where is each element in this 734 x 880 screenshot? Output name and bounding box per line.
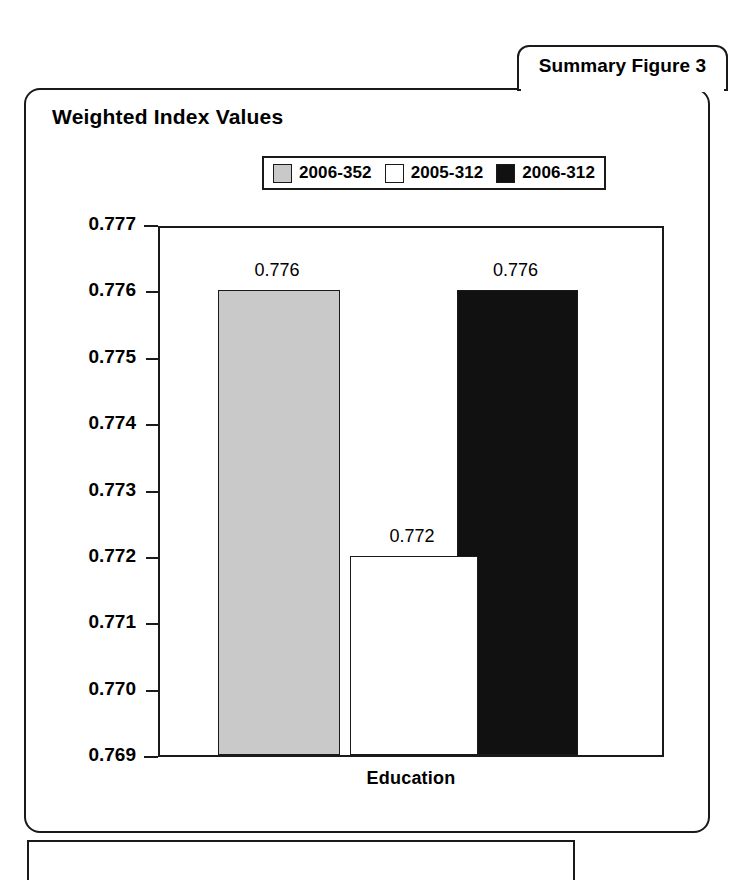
y-axis-tick-mark [146,291,158,293]
chart-title: Weighted Index Values [52,105,283,129]
legend-label-2: 2006-312 [522,163,595,183]
plot-inner [160,228,662,755]
y-axis-tick-label: 0.776 [58,279,136,301]
x-axis-category-label: Education [158,768,664,789]
legend-label-1: 2005-312 [411,163,484,183]
bar-value-label: 0.776 [216,260,338,281]
y-axis-tick-mark [146,358,158,360]
y-axis-tick-label: 0.774 [58,412,136,434]
legend-swatch-icon-1 [385,164,404,183]
y-axis-tick-label: 0.769 [58,744,136,766]
bar-2006-352 [218,290,340,755]
legend-item-0: 2006-352 [273,163,372,183]
bar-value-label: 0.776 [455,260,576,281]
legend-item-1: 2005-312 [385,163,484,183]
y-axis-tick-mark [146,424,158,426]
y-axis-tick-label: 0.777 [58,213,136,235]
summary-figure-tab-label: Summary Figure 3 [519,55,726,77]
bar-value-label: 0.772 [348,526,476,547]
y-axis-tick-mark [146,491,158,493]
y-axis-tick-mark [144,756,158,758]
tab-merge-mask [521,84,724,92]
y-axis-tick-label: 0.773 [58,479,136,501]
chart-legend: 2006-352 2005-312 2006-312 [262,156,606,190]
legend-swatch-icon-0 [273,164,292,183]
plot-area [158,226,664,757]
legend-label-0: 2006-352 [299,163,372,183]
y-axis-tick-mark [146,557,158,559]
legend-item-2: 2006-312 [496,163,595,183]
y-axis-tick-label: 0.771 [58,611,136,633]
legend-swatch-icon-2 [496,164,515,183]
y-axis-tick-label: 0.770 [58,678,136,700]
y-axis-tick-label: 0.772 [58,545,136,567]
y-axis-tick-mark [146,690,158,692]
y-axis-tick-mark [144,225,158,227]
bar-2005-312 [350,556,478,755]
y-axis-tick-label: 0.775 [58,346,136,368]
bottom-panel [27,840,575,880]
y-axis-tick-mark [146,623,158,625]
